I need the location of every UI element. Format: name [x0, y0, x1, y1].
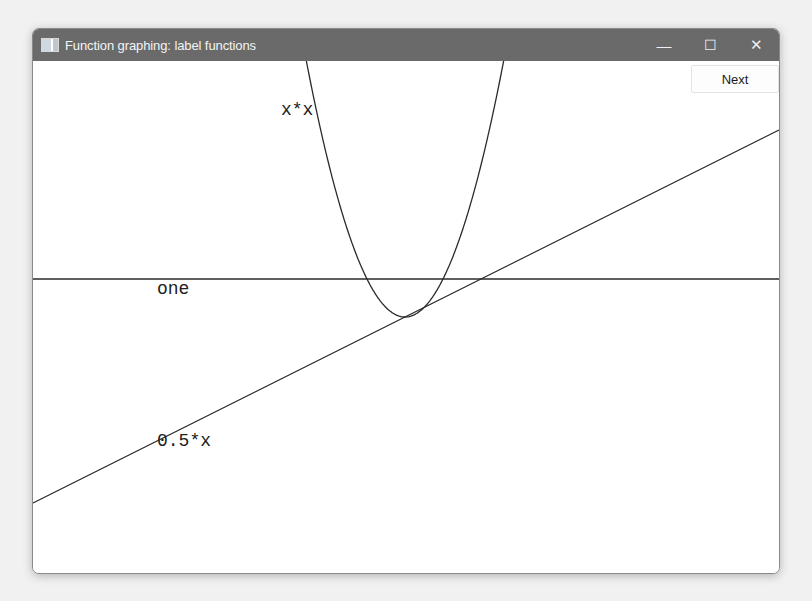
- function-label: 0.5*x: [157, 431, 211, 451]
- minimize-icon[interactable]: —: [641, 29, 687, 61]
- function-curve-2: [33, 130, 779, 503]
- close-icon[interactable]: ✕: [733, 29, 779, 61]
- function-label: x*x: [281, 100, 313, 120]
- app-window: Function graphing: label functions — ☐ ✕…: [32, 28, 780, 574]
- title-bar[interactable]: Function graphing: label functions — ☐ ✕: [33, 29, 779, 61]
- function-plot: onex*x0.5*x: [33, 61, 779, 573]
- window-title: Function graphing: label functions: [65, 38, 256, 53]
- function-label: one: [157, 279, 189, 299]
- maximize-icon[interactable]: ☐: [687, 29, 733, 61]
- graph-canvas: onex*x0.5*x Next: [33, 61, 779, 573]
- next-button[interactable]: Next: [691, 65, 779, 93]
- window-controls: — ☐ ✕: [641, 29, 779, 61]
- app-icon: [41, 38, 59, 52]
